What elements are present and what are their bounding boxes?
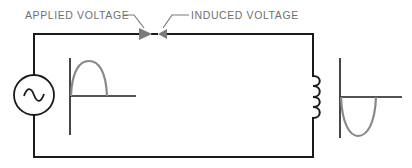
applied-voltage-label: APPLIED VOLTAGE bbox=[25, 9, 129, 21]
induced-voltage-label: INDUCED VOLTAGE bbox=[191, 9, 299, 21]
induced-voltage-graph bbox=[340, 58, 402, 138]
applied-waveform bbox=[71, 61, 107, 96]
ac-source-icon bbox=[14, 75, 54, 115]
applied-voltage-graph bbox=[70, 58, 136, 135]
inductor-coil-icon bbox=[313, 76, 320, 118]
circuit-diagram bbox=[0, 0, 412, 168]
induced-voltage-arrow-icon bbox=[158, 15, 189, 39]
induced-waveform bbox=[341, 97, 376, 136]
